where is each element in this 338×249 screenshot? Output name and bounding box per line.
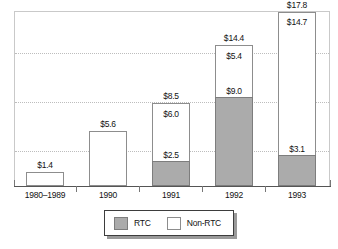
- x-tick-label: 1980–1989: [14, 190, 76, 201]
- bar-segment-label: $9.0: [216, 86, 252, 96]
- legend-label: Non-RTC: [187, 218, 221, 228]
- bar-segment-nonrtc: $14.7: [278, 12, 316, 156]
- x-tick-label: 1992: [203, 190, 265, 201]
- bar-total-label: $1.4: [26, 160, 64, 170]
- bar-segment-nonrtc: [26, 172, 64, 186]
- bar-segment-rtc: $3.1: [278, 155, 316, 186]
- stacked-bar-chart: $1.4 $5.6 $8.5 $6.0 $2.5 $14.4 $5.4 $9.0…: [0, 0, 338, 249]
- gray-swatch-icon: [114, 217, 128, 230]
- bar-total-label: $14.4: [215, 33, 253, 43]
- bar-segment-label: $6.0: [153, 109, 189, 119]
- legend-label: RTC: [134, 218, 151, 228]
- x-tick-label: 1991: [140, 190, 202, 201]
- bar-total-label: $8.5: [152, 91, 190, 101]
- axis-tick-end: [330, 180, 331, 186]
- legend: RTC Non-RTC: [104, 210, 234, 236]
- axis-tick-start: [14, 180, 15, 186]
- bar-segment-label: $3.1: [279, 144, 315, 154]
- bar-segment-rtc: $2.5: [152, 161, 190, 186]
- bar-segment-label: $5.4: [216, 51, 252, 61]
- legend-item-nonrtc: Non-RTC: [167, 217, 221, 230]
- x-tick-label: 1993: [266, 190, 328, 201]
- legend-item-rtc: RTC: [114, 217, 151, 230]
- bar-segment-rtc: $9.0: [215, 97, 253, 186]
- x-axis-line: [14, 186, 331, 187]
- bar-total-label: $5.6: [89, 119, 127, 129]
- bar-segment-label: $14.7: [279, 17, 315, 27]
- white-swatch-icon: [167, 217, 181, 230]
- bar-segment-label: $2.5: [153, 150, 189, 160]
- x-tick-label: 1990: [77, 190, 139, 201]
- bar-segment-nonrtc: [89, 131, 127, 186]
- bar-total-label: $17.8: [278, 0, 316, 10]
